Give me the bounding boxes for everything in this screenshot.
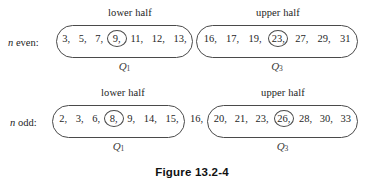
value: 12,: [152, 33, 165, 44]
value: 23,: [255, 113, 268, 124]
row-0-label-suffix: even:: [13, 37, 38, 48]
row-0-q1-label: Q1: [56, 60, 193, 73]
row-1-median-value: 16,: [190, 113, 203, 124]
q-letter: Q: [277, 140, 285, 152]
row-1-label-suffix: odd:: [15, 117, 36, 128]
value: 15,: [166, 113, 179, 124]
value: 2,: [59, 113, 67, 124]
q-subscript: 1: [127, 64, 131, 73]
value: 3,: [62, 33, 70, 44]
q-subscript: 3: [279, 64, 283, 73]
value: 16,: [204, 33, 217, 44]
row-1-q3-label: Q3: [207, 140, 358, 153]
value-circled-q3: 23,: [271, 33, 286, 44]
q-subscript: 1: [121, 144, 125, 153]
q-letter: Q: [113, 140, 121, 152]
value-circled-q1: 9,: [112, 33, 122, 44]
value: 6,: [92, 113, 100, 124]
q-subscript: 3: [285, 144, 289, 153]
row-0-lower-half-header: lower half: [86, 7, 174, 18]
value: 3,: [76, 113, 84, 124]
row-0-lower-half-values: 3, 5, 7, 9, 11, 12, 13,: [58, 33, 191, 44]
value: 17,: [226, 33, 239, 44]
value: 7,: [95, 33, 103, 44]
value: 28,: [299, 113, 312, 124]
row-1-upper-half-values: 20, 21, 23, 26, 28, 30, 33: [210, 113, 355, 124]
row-1-q1-label: Q1: [52, 140, 185, 153]
row-1-lower-half-header: lower half: [79, 87, 167, 98]
value: 19,: [248, 33, 261, 44]
value: 29,: [318, 33, 331, 44]
q-letter: Q: [271, 60, 279, 72]
row-1-upper-half-header: upper half: [239, 87, 327, 98]
figure-13-2-4: lower half upper half n even: 3, 5, 7, 9…: [0, 0, 384, 188]
value: 11,: [130, 33, 143, 44]
row-0-q3-label: Q3: [196, 60, 358, 73]
row-1-label: n odd:: [10, 117, 37, 128]
value-circled-q1: 8,: [109, 113, 119, 124]
row-1-lower-half-values: 2, 3, 6, 8, 9, 14, 15,: [55, 113, 183, 124]
row-0-upper-half-values: 16, 17, 19, 23, 27, 29, 31: [199, 33, 355, 44]
value: 27,: [295, 33, 308, 44]
value: 30,: [320, 113, 333, 124]
row-0-upper-half-header: upper half: [234, 7, 322, 18]
value: 21,: [235, 113, 248, 124]
q-letter: Q: [119, 60, 127, 72]
row-0-label: n even:: [8, 37, 39, 48]
value: 20,: [214, 113, 227, 124]
value: 31: [340, 33, 351, 44]
value: 33: [341, 113, 352, 124]
value: 13,: [174, 33, 187, 44]
figure-caption: Figure 13.2-4: [0, 166, 384, 178]
value: 5,: [79, 33, 87, 44]
value: 14,: [144, 113, 157, 124]
value-circled-q3: 26,: [276, 113, 291, 124]
value: 9,: [127, 113, 135, 124]
